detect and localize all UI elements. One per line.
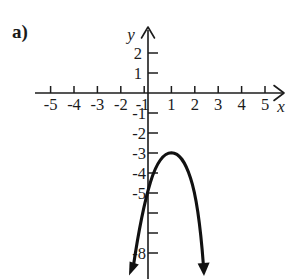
y-tick-label-1: 1 xyxy=(134,64,142,83)
x-tick-label--5: -5 xyxy=(44,95,58,114)
x-tick-label--2: -2 xyxy=(114,95,128,114)
y-tick-label--1: -1 xyxy=(132,104,146,123)
x-tick-label-5: 5 xyxy=(261,95,269,114)
coordinate-plane: -5 -4 -3 -2 -1 1 2 3 4 5 2 1 -1 -2 -3 -4… xyxy=(0,0,298,279)
y-axis-label: y xyxy=(125,25,135,44)
x-tick-label-2: 2 xyxy=(191,95,199,114)
y-tick-label--4: -4 xyxy=(132,164,146,183)
y-tick-label-2: 2 xyxy=(134,44,142,63)
x-tick-label-3: 3 xyxy=(214,95,222,114)
x-axis-label: x xyxy=(276,97,285,116)
y-tick-label--5: -5 xyxy=(132,184,146,203)
x-tick-label--3: -3 xyxy=(91,95,105,114)
x-tick-label-4: 4 xyxy=(237,95,245,114)
x-tick-label-1: 1 xyxy=(167,95,175,114)
graph-figure: a) -5 -4 -3 -2 -1 1 xyxy=(0,0,298,279)
y-tick-label--2: -2 xyxy=(132,124,146,143)
y-tick-label--3: -3 xyxy=(132,144,146,163)
x-tick-label--4: -4 xyxy=(67,95,81,114)
parabola-left-arrow-icon xyxy=(129,262,139,276)
parabola-right-arrow-icon xyxy=(198,263,210,277)
